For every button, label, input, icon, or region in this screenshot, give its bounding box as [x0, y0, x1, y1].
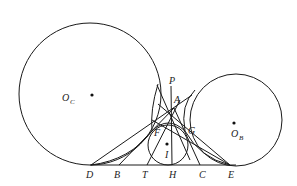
label-a: A [173, 94, 181, 105]
label-f: F [153, 127, 161, 138]
label-c: C [199, 169, 206, 180]
label-d: D [85, 169, 94, 180]
segment-ph [171, 86, 172, 165]
arc-d-f [91, 131, 152, 165]
label-oc-sub: C [70, 98, 75, 106]
label-h: H [168, 169, 177, 180]
label-i: I [164, 149, 169, 160]
circle-ob [190, 74, 282, 166]
label-e: E [227, 169, 234, 180]
label-b: B [114, 169, 120, 180]
label-ob: O [231, 128, 238, 139]
geometry-diagram: O C O B I P A F G D B T H C E [0, 0, 297, 186]
label-oc: O [62, 92, 69, 103]
label-p: P [168, 75, 175, 86]
center-oc-dot [90, 93, 93, 96]
center-i-dot [165, 142, 168, 145]
center-ob-dot [232, 121, 235, 124]
label-g: G [188, 125, 195, 136]
label-ob-sub: B [239, 134, 244, 142]
label-t: T [142, 169, 149, 180]
